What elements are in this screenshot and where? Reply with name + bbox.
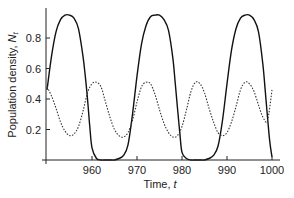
- y-axis-label: Population density, Nt: [6, 32, 20, 138]
- y-tick-label: 0.2: [26, 124, 41, 136]
- axes: 0.20.40.60.8 9609709809901000: [26, 8, 285, 176]
- plot-lines: [47, 15, 272, 160]
- x-tick-label: 980: [173, 164, 191, 176]
- x-tick-label: 970: [128, 164, 146, 176]
- y-tick-label: 0.8: [26, 32, 41, 44]
- series-line-solid: [47, 15, 272, 160]
- x-ticks: 9609709809901000: [83, 156, 284, 176]
- population-density-chart: 0.20.40.60.8 9609709809901000 Time, t Po…: [0, 0, 294, 198]
- x-tick-label: 1000: [260, 164, 284, 176]
- series-line-dotted: [47, 82, 272, 138]
- x-tick-label: 960: [83, 164, 101, 176]
- y-tick-label: 0.6: [26, 63, 41, 75]
- x-axis-label: Time, t: [143, 178, 177, 190]
- y-tick-label: 0.4: [26, 93, 41, 105]
- x-tick-label: 990: [218, 164, 236, 176]
